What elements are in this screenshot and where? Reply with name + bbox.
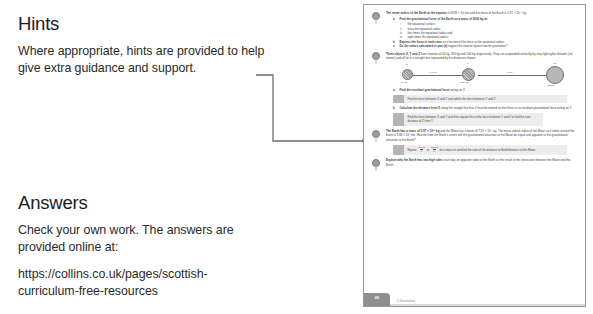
question-parts: b Calculate the distance from X along th…	[386, 106, 578, 110]
question-stem: The mean radius of the Earth at the equa…	[386, 11, 578, 15]
question-number-badge	[372, 130, 380, 138]
question-part: c Do the values calculated in part (a) s…	[393, 44, 578, 48]
slide-canvas: Hints Where appropriate, hints are provi…	[0, 0, 593, 314]
roman-list: i the equatorial surface ii twice the eq…	[393, 22, 578, 39]
answers-url-link[interactable]: https://collins.co.uk/pages/scottish-cur…	[18, 266, 266, 301]
diagram-body-y	[462, 68, 475, 81]
diagram-body-z-label: Z	[554, 62, 556, 65]
worksheet-page-preview: The mean radius of the Earth at the equa…	[363, 4, 586, 307]
hint-text: Find the force between X and Y and then …	[404, 113, 543, 126]
diagram-gap-label-2: 4.8 m	[506, 71, 512, 74]
question-stem-bold: The mean radius of the Earth at the equa…	[386, 11, 447, 15]
hint-text: Equate GM₁mr₁² to GM₂mr₂² for a mass m a…	[404, 145, 567, 155]
question-number-badge	[372, 159, 380, 167]
question-parts: a Find the gravitational force of the Ea…	[386, 17, 578, 49]
diagram-body-y-label: Y	[467, 62, 469, 65]
part-label: a	[393, 88, 397, 92]
hint-callout: Find the force between X and Y and then …	[393, 113, 543, 126]
hints-section: Hints Where appropriate, hints are provi…	[18, 15, 298, 78]
lightbulb-hint-icon	[393, 113, 404, 126]
hint-callout: Find the force between X and Z and add t…	[393, 95, 567, 104]
fraction-denominator: r₂²	[433, 149, 436, 153]
diagram-body-z-mass: 140 kg	[547, 84, 555, 87]
hint-text-pre: Equate	[408, 148, 418, 152]
question-stem: Explain why the Earth has two high tides…	[386, 158, 578, 167]
left-explanation-column: Hints Where appropriate, hints are provi…	[18, 0, 318, 314]
answers-section: Answers Check your own work. The answers…	[18, 194, 308, 301]
hints-description: Where appropriate, hints are provided to…	[18, 43, 270, 78]
question-stem-bold: Explain why the Earth has two high tides	[386, 158, 443, 162]
question-stem: The Earth has a mass of 5.97 × 10²⁴ kg a…	[386, 129, 578, 142]
question-item: The Earth has a mass of 5.97 × 10²⁴ kg a…	[372, 129, 578, 155]
lightbulb-hint-icon	[393, 95, 404, 104]
question-item: Three objects X, Y and Z have masses of …	[372, 52, 578, 126]
page-content: The mean radius of the Earth at the equa…	[372, 11, 578, 286]
diagram-body-x-label: X	[406, 63, 408, 66]
question-stem-bold: The Earth has a mass of 5.97 × 10²⁴ kg	[386, 129, 440, 133]
hint-text-post: for a mass m and find the ratio of the d…	[439, 148, 536, 152]
part-label: b	[393, 106, 397, 110]
part-label: a	[393, 17, 397, 21]
diagram-connector	[410, 75, 464, 76]
part-text: Find the gravitational force of the Eart…	[400, 17, 488, 21]
part-text-bold: Calculate the distance from X	[400, 106, 440, 110]
diagram-body-z	[546, 66, 564, 84]
diagram-body-x-mass: 34 kg	[401, 81, 407, 84]
hint-text: Find the force between X and Z and add t…	[404, 95, 567, 104]
part-text: Find the resultant gravitational force a…	[400, 88, 466, 92]
diagram-body-y-mass: 350 kg	[461, 81, 469, 84]
part-text-bold: Do the values calculated in part (a)	[400, 44, 448, 48]
question-item: The mean radius of the Earth at the equa…	[372, 11, 578, 48]
part-label: c	[393, 44, 397, 48]
footer-rule	[364, 304, 585, 306]
diagram-body-x	[402, 69, 413, 80]
diagram-gap-label-1: 3.40 m	[429, 71, 437, 74]
part-text-rest: along the straight line that Z must be m…	[440, 106, 572, 110]
question-stem-bold: Three objects X, Y and Z	[386, 52, 420, 56]
question-parts: a Find the resultant gravitational force…	[386, 88, 578, 92]
part-text-bold: Find the resultant gravitational force	[400, 88, 450, 92]
equation-fraction-1: GM₁mr₁²	[418, 147, 425, 153]
question-stem-rest: is 6378 × 10³ km and the mass of the Ear…	[447, 11, 527, 15]
part-text-bold: Find the gravitational force of the Eart…	[400, 17, 488, 21]
question-part: b Calculate the distance from X along th…	[393, 106, 578, 110]
page-number: 48	[364, 296, 390, 300]
part-text-rest: support the inverse square law for gravi…	[447, 44, 507, 48]
question-part: a Find the gravitational force of the Ea…	[393, 17, 578, 21]
question-part: a Find the resultant gravitational force…	[393, 88, 578, 92]
page-number-tab: 48	[364, 293, 390, 306]
answers-description: Check your own work. The answers are pro…	[18, 222, 266, 257]
part-text: Do the values calculated in part (a) sup…	[400, 44, 508, 48]
footer-chapter-note: 1 Gravitation	[397, 299, 415, 303]
hints-heading: Hints	[18, 15, 298, 34]
lightbulb-hint-icon	[393, 145, 404, 155]
answers-heading: Answers	[18, 194, 308, 213]
hint-text-mid: to	[426, 148, 430, 152]
fraction-denominator: r₁²	[420, 149, 422, 153]
equation-fraction-2: GM₂mr₂²	[431, 147, 438, 153]
question-number-badge	[372, 52, 380, 60]
question-item: Explain why the Earth has two high tides…	[372, 158, 578, 167]
question-stem: Three objects X, Y and Z have masses of …	[386, 52, 578, 61]
gravitation-diagram: X 34 kg Y 350 kg Z 140 kg 3.40 m 4.8 m	[396, 62, 572, 86]
part-text: Calculate the distance from X along the …	[400, 106, 572, 110]
part-text-rest: acting on Z.	[450, 88, 466, 92]
question-number-badge	[372, 12, 380, 20]
hint-callout: Equate GM₁mr₁² to GM₂mr₂² for a mass m a…	[393, 145, 567, 155]
diagram-connector	[478, 75, 550, 76]
